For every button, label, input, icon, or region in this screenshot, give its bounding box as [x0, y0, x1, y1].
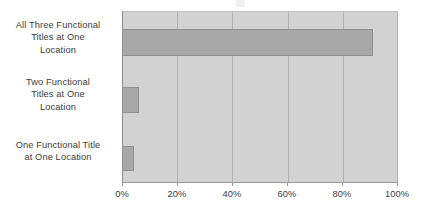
tick-mark-0: [122, 182, 123, 186]
category-axis: All Three Functional Titles at One Locat…: [0, 11, 120, 182]
category-label-line: Titles at One: [0, 31, 117, 43]
tick-mark-20: [177, 182, 178, 186]
category-label-line: Titles at One: [0, 88, 117, 100]
tick-label-20: 20%: [153, 189, 201, 199]
category-label-one: One Functional Title at One Location: [0, 139, 117, 164]
category-label-all-three: All Three Functional Titles at One Locat…: [0, 19, 117, 56]
tick-label-0: 0%: [98, 189, 146, 199]
plot-area: [122, 11, 398, 183]
tick-label-100: 100%: [373, 189, 421, 199]
category-label-line: at One Location: [0, 151, 117, 163]
category-label-line: One Functional Title: [0, 139, 117, 151]
category-label-line: Location: [0, 101, 117, 113]
tick-label-40: 40%: [208, 189, 256, 199]
bar-two: [122, 87, 139, 113]
category-label-line: Location: [0, 44, 117, 56]
bar-one: [122, 146, 134, 171]
category-label-line: All Three Functional: [0, 19, 117, 31]
tick-mark-60: [287, 182, 288, 186]
tick-mark-40: [232, 182, 233, 186]
scan-artifact: [236, 0, 245, 7]
tick-mark-100: [397, 182, 398, 186]
bar-chart: All Three Functional Titles at One Locat…: [0, 0, 423, 213]
tick-label-80: 80%: [318, 189, 366, 199]
value-axis-baseline: [122, 182, 398, 183]
bar-all-three: [122, 29, 373, 56]
category-label-line: Two Functional: [0, 76, 117, 88]
tick-label-60: 60%: [263, 189, 311, 199]
tick-mark-80: [342, 182, 343, 186]
category-label-two: Two Functional Titles at One Location: [0, 76, 117, 113]
value-axis-line: [122, 11, 123, 183]
